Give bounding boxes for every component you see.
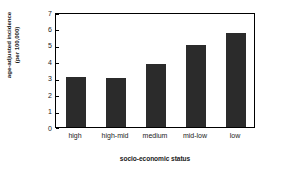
- bar: [106, 78, 126, 127]
- bar: [186, 45, 206, 127]
- y-axis-tick-label: 0: [38, 125, 52, 132]
- bar: [66, 77, 86, 127]
- y-axis-tick-label: 7: [38, 10, 52, 17]
- y-axis-tick-label: 2: [38, 92, 52, 99]
- y-axis-title-line-1: age-adjusted incidence: [5, 12, 13, 78]
- y-axis-title: age-adjusted incidence (per 100,000): [2, 0, 24, 95]
- plot-area: [55, 13, 255, 128]
- y-axis-tick-label: 6: [38, 26, 52, 33]
- y-axis-title-line-2: (per 100,000): [13, 27, 21, 64]
- y-axis-tick-label: 3: [38, 75, 52, 82]
- y-axis-tick-label: 4: [38, 59, 52, 66]
- y-axis-tick-labels: 01234567: [38, 13, 52, 128]
- bar: [146, 64, 166, 127]
- x-axis-tick-label: high: [55, 131, 95, 140]
- bar-chart-figure: age-adjusted incidence (per 100,000) 012…: [0, 0, 290, 182]
- x-axis-tick-label: low: [215, 131, 255, 140]
- x-axis-tick-label: medium: [135, 131, 175, 140]
- x-axis-tick-label: mid-low: [175, 131, 215, 140]
- bar: [226, 33, 246, 127]
- y-axis-tick-label: 1: [38, 108, 52, 115]
- x-axis-title: socio-economic status: [55, 155, 255, 162]
- y-axis-tick-label: 5: [38, 42, 52, 49]
- bars-group: [56, 14, 254, 127]
- x-axis-tick-label: high-mid: [95, 131, 135, 140]
- x-axis-tick-labels: highhigh-midmediummid-lowlow: [55, 131, 255, 143]
- y-axis-tick-mark: [56, 128, 59, 129]
